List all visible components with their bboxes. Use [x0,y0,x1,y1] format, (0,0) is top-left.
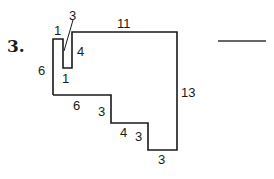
label-notch-top: 1 [54,23,61,38]
label-step2-vertical: 3 [135,129,142,144]
label-left: 6 [38,63,45,78]
label-bottom-right: 3 [158,152,165,167]
label-step1-vertical: 3 [98,104,105,119]
label-bottom-left: 6 [73,98,80,113]
label-notch-bottom: 1 [62,71,69,86]
label-notch-slant: 3 [69,8,76,23]
polygon-outline [53,32,177,150]
label-right: 13 [181,85,195,100]
label-notch-inner-right: 4 [77,44,84,59]
perimeter-figure: 1 3 11 4 6 1 13 6 3 4 3 3 [0,0,274,179]
label-step2-horizontal: 4 [120,125,127,140]
label-top: 11 [117,16,131,31]
